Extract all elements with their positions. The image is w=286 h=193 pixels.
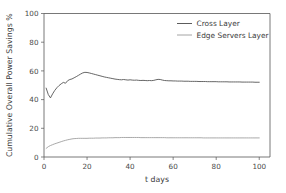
- x-tick-label: 20: [82, 162, 92, 171]
- y-tick-label: 40: [29, 95, 39, 104]
- x-tick-label: 60: [169, 162, 179, 171]
- y-axis-label: Cumulative Overall Power Savings %: [5, 13, 14, 157]
- x-tick-label: 0: [42, 162, 47, 171]
- legend-label-1: Edge Servers Layer: [197, 31, 270, 40]
- y-tick-label: 80: [29, 38, 39, 47]
- y-tick-label: 0: [34, 153, 39, 162]
- y-tick-label: 20: [29, 124, 39, 133]
- line-chart: 020406080100 020406080100 Cross LayerEdg…: [0, 0, 286, 193]
- y-tick-label: 100: [25, 9, 39, 18]
- legend-label-0: Cross Layer: [197, 19, 241, 28]
- x-tick-label: 100: [252, 162, 266, 171]
- x-tick-label: 80: [212, 162, 222, 171]
- x-axis-label: t days: [145, 175, 169, 184]
- x-tick-label: 40: [126, 162, 136, 171]
- chart-figure: 020406080100 020406080100 Cross LayerEdg…: [0, 0, 286, 193]
- y-tick-label: 60: [29, 67, 39, 76]
